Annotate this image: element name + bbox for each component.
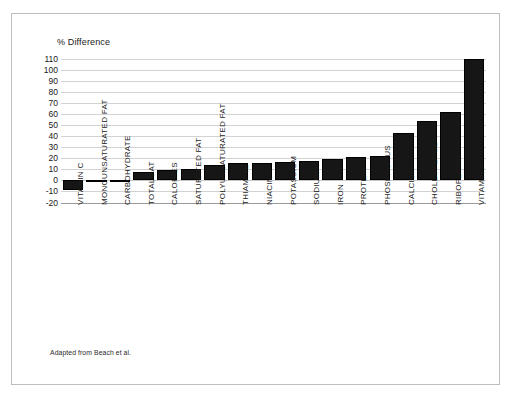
y-axis-tick-label: 40 <box>32 132 58 141</box>
y-axis-tick-label: 110 <box>32 55 58 64</box>
x-axis-category-label: TOTAL FAT <box>147 161 156 205</box>
bar-chart: % Difference 1101009080706050403020100-1… <box>0 0 517 401</box>
y-axis-tick-labels: 1101009080706050403020100-10-20 <box>30 59 58 203</box>
x-axis-category-label: NIACIN <box>265 176 274 205</box>
y-axis-tick-label: 20 <box>32 154 58 163</box>
x-axis-category-label: SATURATED FAT <box>194 138 203 205</box>
y-axis-tick-label: 0 <box>32 176 58 185</box>
x-axis-category-label: POLYUNSATURATED FAT <box>218 103 227 205</box>
y-axis-tick-label: -10 <box>32 187 58 196</box>
x-axis-category-labels: VITAMIN CMONOUNSATURATED FATCARBOHYDRATE… <box>61 205 486 325</box>
y-axis-tick-label: 50 <box>32 121 58 130</box>
y-axis-tick-label: -20 <box>32 199 58 208</box>
x-axis-category-label: SODIUM <box>312 171 321 205</box>
x-axis-category-label: CALORIES <box>170 162 179 205</box>
y-axis-tick-label: 10 <box>32 165 58 174</box>
y-axis-tick-label: 60 <box>32 110 58 119</box>
x-axis-category-label: IRON <box>336 184 345 205</box>
y-axis-tick-label: 90 <box>32 77 58 86</box>
y-axis-tick-label: 30 <box>32 143 58 152</box>
x-axis-category-label: THIAMINE <box>241 164 250 205</box>
x-axis-category-label: VITAMIN C <box>76 162 85 205</box>
x-axis-category-label: RIBOFLAVIN <box>454 155 463 205</box>
y-axis-title: % Difference <box>57 37 110 47</box>
x-axis-category-label: MONOUNSATURATED FAT <box>100 99 109 205</box>
x-axis-category-label: POTASSIUM <box>289 156 298 205</box>
bar <box>322 159 342 180</box>
figure-root: % Difference 1101009080706050403020100-1… <box>0 0 517 401</box>
y-axis-tick-label: 70 <box>32 99 58 108</box>
y-axis-tick-label: 100 <box>32 66 58 75</box>
x-axis-category-label: PHOSPHORUS <box>383 145 392 205</box>
x-axis-category-label: CARBOHYDRATE <box>123 135 132 205</box>
source-note: Adapted from Beach et al. <box>50 349 131 356</box>
x-axis-category-label: VITAMIN A <box>477 163 486 205</box>
x-axis-category-label: CHOLESTEROL <box>430 142 439 205</box>
x-axis-category-label: PROTEIN <box>359 167 368 205</box>
x-axis-category-label: CALCIUM <box>407 167 416 205</box>
y-axis-tick-label: 80 <box>32 88 58 97</box>
